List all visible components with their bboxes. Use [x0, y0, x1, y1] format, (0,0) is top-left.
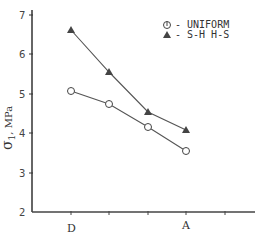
x-label-a: A	[181, 219, 191, 232]
chart: 7 6 5 4 3 2 D A σ1, MPa - UNIFORM	[0, 0, 258, 237]
legend-triangle-icon	[163, 31, 171, 38]
circle-marker-icon	[183, 148, 190, 155]
y-tick-6: 6	[19, 49, 25, 60]
y-tick-3: 3	[19, 168, 25, 179]
triangle-marker-icon	[182, 126, 190, 133]
x-label-d: D	[67, 222, 76, 235]
y-tick-5: 5	[19, 89, 25, 100]
legend-shhs-label: - S-H H-S	[175, 29, 229, 40]
series-uniform-line	[71, 91, 186, 151]
circle-marker-icon	[145, 124, 152, 131]
svg-text:σ1, MPa: σ1, MPa	[0, 106, 17, 150]
y-tick-4: 4	[19, 128, 25, 139]
triangle-marker-icon	[67, 26, 75, 33]
y-axis-label: σ1, MPa	[0, 106, 17, 150]
legend: - UNIFORM - S-H H-S	[163, 19, 229, 40]
y-tick-2: 2	[19, 207, 25, 218]
circle-marker-icon	[68, 88, 75, 95]
circle-marker-icon	[106, 101, 113, 108]
series-shhs-markers	[67, 26, 190, 133]
series-uniform-markers	[68, 88, 190, 155]
y-tick-7: 7	[19, 10, 25, 21]
